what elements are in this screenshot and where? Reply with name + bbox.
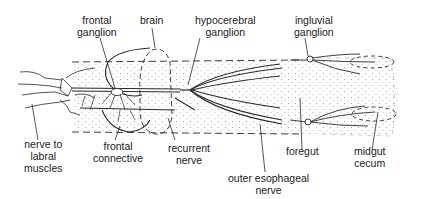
label-outer-esophageal-nerve: outer esophageal nerve [228, 172, 309, 196]
label-frontal-connective: frontal connective [93, 140, 143, 164]
label-midgut-cecum: midgut cecum [354, 145, 386, 169]
label-ingluvial-ganglion: ingluvial ganglion [294, 14, 334, 38]
frontal-ganglion [111, 89, 123, 96]
label-foregut: foregut [286, 145, 319, 157]
label-frontal-ganglion: frontal ganglion [77, 14, 117, 38]
label-hypocerebral-ganglion: hypocerebral ganglion [195, 14, 256, 38]
label-recurrent-nerve: recurrent nerve [168, 142, 210, 166]
label-nerve-to-labral-muscles: nerve to labral muscles [24, 138, 63, 174]
label-brain: brain [140, 14, 163, 26]
